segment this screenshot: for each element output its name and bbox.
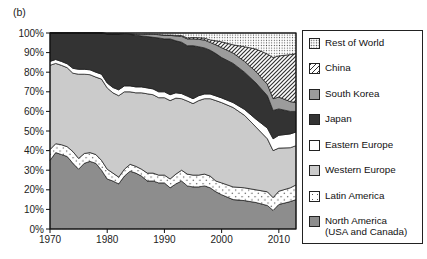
y-tick-label: 30% [24, 165, 44, 176]
legend-swatch [309, 89, 320, 100]
legend-item-china: China [309, 62, 418, 74]
x-tick-label: 2000 [211, 234, 234, 245]
legend-label: China [325, 62, 351, 73]
y-tick-label: 50% [24, 126, 44, 137]
legend-swatch [309, 165, 320, 176]
legend-item-japan: Japan [309, 113, 418, 125]
x-tick-label: 2010 [268, 234, 291, 245]
legend-swatch [309, 191, 320, 202]
legend-item-western-europe: Western Europe [309, 164, 418, 176]
legend-label: Eastern Europe [325, 139, 393, 150]
y-tick-label: 60% [24, 106, 44, 117]
x-tick-label: 1990 [153, 234, 176, 245]
legend-swatch [309, 114, 320, 125]
y-tick-label: 80% [24, 67, 44, 78]
legend-swatch [309, 63, 320, 74]
legend-label: Japan [325, 113, 352, 124]
legend-swatch [309, 140, 320, 151]
legend-label: Western Europe [325, 164, 396, 175]
figure: (b) 0%10%20%30%40%50%60%70%80%90%100%197… [0, 0, 427, 259]
legend-item-eastern-europe: Eastern Europe [309, 139, 418, 151]
legend-item-rest-of-world: Rest of World [309, 37, 418, 49]
y-tick-label: 100% [18, 28, 44, 39]
legend-swatch [309, 216, 320, 227]
legend: Rest of WorldChinaSouth KoreaJapanEaster… [302, 30, 423, 244]
y-tick-label: 90% [24, 47, 44, 58]
legend-swatch [309, 38, 320, 49]
panel-label: (b) [13, 6, 26, 18]
legend-label: South Korea [325, 88, 379, 99]
legend-label: Latin America [325, 190, 384, 201]
x-tick-label: 1980 [96, 234, 119, 245]
y-tick-label: 0% [30, 224, 45, 235]
y-tick-label: 70% [24, 86, 44, 97]
chart-bands [50, 33, 296, 229]
legend-label: Rest of World [325, 37, 384, 48]
y-tick-label: 10% [24, 204, 44, 215]
y-tick-label: 40% [24, 145, 44, 156]
x-tick-label: 1970 [39, 234, 62, 245]
legend-item-north-america: North America(USA and Canada) [309, 215, 418, 237]
legend-item-latin-america: Latin America [309, 190, 418, 202]
y-tick-label: 20% [24, 184, 44, 195]
legend-item-south-korea: South Korea [309, 88, 418, 100]
legend-label: North America(USA and Canada) [325, 215, 407, 237]
